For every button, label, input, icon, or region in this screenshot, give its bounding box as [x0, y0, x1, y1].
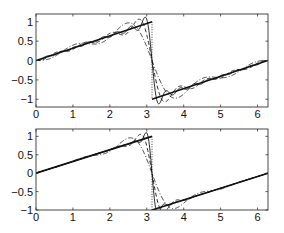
x-tick-label: 6: [254, 108, 260, 120]
x-tick-label: 1: [70, 211, 76, 223]
x-tick-label: 4: [181, 211, 187, 223]
y-tick-label: 0.5: [18, 35, 33, 47]
bottom-plot-axes: 0123456−1−0.500.51: [11, 129, 268, 223]
y-tick-label: 1: [27, 130, 33, 142]
x-tick-label: 5: [218, 211, 224, 223]
x-tick-label: 1: [70, 108, 76, 120]
y-tick-label: −1: [20, 204, 33, 216]
plot-area: [36, 17, 268, 104]
plot-area: [36, 132, 268, 213]
y-tick-label: 0: [27, 55, 33, 67]
figure: 0123456−1−0.500.51 0123456−1−0.500.51: [0, 0, 284, 233]
x-tick-label: 2: [107, 108, 113, 120]
x-tick-label: 0: [33, 108, 39, 120]
x-tick-label: 6: [254, 211, 260, 223]
y-tick-label: −1: [20, 93, 33, 105]
top-plot-axes: 0123456−1−0.500.51: [11, 14, 268, 120]
y-tick-label: −0.5: [11, 186, 33, 198]
y-tick-label: 0.5: [18, 149, 33, 161]
x-tick-label: 5: [218, 108, 224, 120]
x-tick-label: 3: [144, 211, 150, 223]
y-tick-label: 1: [27, 16, 33, 28]
x-tick-label: 3: [144, 108, 150, 120]
y-tick-label: 0: [27, 167, 33, 179]
x-tick-label: 4: [181, 108, 187, 120]
x-tick-label: 2: [107, 211, 113, 223]
x-tick-label: 0: [33, 211, 39, 223]
y-tick-label: −0.5: [11, 74, 33, 86]
